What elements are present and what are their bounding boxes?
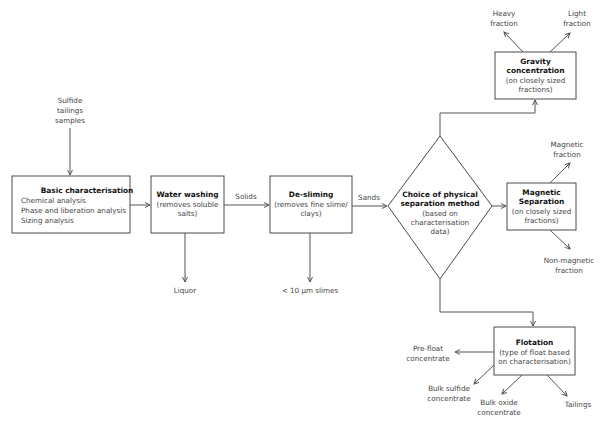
arrow-flotation-to-bulk-sulfide bbox=[474, 365, 494, 384]
arrow-magnetic-to-magnetic-fraction bbox=[550, 163, 570, 183]
svg-text:Pre-float: Pre-float bbox=[413, 344, 443, 353]
svg-text:fraction: fraction bbox=[553, 150, 581, 159]
svg-text:Basic characterisation: Basic characterisation bbox=[41, 186, 134, 195]
arrow-magnetic-to-nonmagnetic bbox=[550, 230, 570, 249]
arrow-decision-to-gravity bbox=[440, 100, 535, 136]
slimes-label: < 10 µm slimes bbox=[282, 286, 339, 295]
nonmagnetic-fraction-label: Non-magnetic fraction bbox=[544, 256, 595, 275]
svg-text:(removes fine slime/: (removes fine slime/ bbox=[274, 200, 348, 209]
svg-text:concentrate: concentrate bbox=[477, 408, 521, 417]
svg-text:separation method: separation method bbox=[400, 199, 479, 208]
svg-text:fractions): fractions) bbox=[524, 216, 558, 225]
flotation-box: Flotation (type of float based on charac… bbox=[494, 327, 575, 375]
solids-label: Solids bbox=[235, 192, 257, 201]
svg-text:fractions): fractions) bbox=[518, 85, 552, 94]
basic-characterisation-box: Basic characterisation Chemical analysis… bbox=[12, 176, 133, 233]
svg-text:Phase and liberation analysis: Phase and liberation analysis bbox=[21, 206, 126, 215]
svg-text:Magnetic: Magnetic bbox=[551, 140, 584, 149]
svg-text:(based on: (based on bbox=[422, 209, 458, 218]
svg-text:fraction: fraction bbox=[555, 266, 583, 275]
prefloat-concentrate-label: Pre-float concentrate bbox=[406, 344, 450, 363]
bulk-oxide-concentrate-label: Bulk oxide concentrate bbox=[477, 398, 521, 417]
arrow-gravity-to-light bbox=[550, 33, 570, 52]
svg-text:Heavy: Heavy bbox=[493, 9, 516, 18]
desliming-box: De-sliming (removes fine slime/ clays) bbox=[270, 176, 352, 233]
sands-label: Sands bbox=[358, 193, 380, 202]
svg-text:De-sliming: De-sliming bbox=[289, 190, 333, 199]
arrow-gravity-to-heavy bbox=[504, 32, 523, 52]
svg-text:Bulk sulfide: Bulk sulfide bbox=[428, 384, 470, 393]
svg-text:salts): salts) bbox=[178, 209, 198, 218]
svg-text:(removes soluble: (removes soluble bbox=[157, 200, 219, 209]
arrow-decision-to-flotation bbox=[440, 279, 533, 326]
svg-text:Light: Light bbox=[568, 9, 586, 18]
svg-text:fraction: fraction bbox=[563, 19, 591, 28]
gravity-concentration-box: Gravity concentration (on closely sized … bbox=[495, 52, 576, 99]
arrow-flotation-to-bulk-oxide bbox=[502, 375, 522, 394]
arrow-flotation-to-tailings bbox=[547, 375, 567, 396]
bulk-sulfide-concentrate-label: Bulk sulfide concentrate bbox=[427, 384, 471, 403]
svg-text:Sulfide: Sulfide bbox=[58, 96, 83, 105]
svg-text:Non-magnetic: Non-magnetic bbox=[544, 256, 595, 265]
svg-text:data): data) bbox=[431, 227, 450, 236]
svg-text:concentration: concentration bbox=[507, 66, 565, 75]
water-washing-box: Water washing (removes soluble salts) bbox=[151, 176, 224, 233]
heavy-fraction-label: Heavy fraction bbox=[490, 9, 518, 28]
svg-text:(on closely sized: (on closely sized bbox=[512, 207, 572, 216]
svg-text:Choice of physical: Choice of physical bbox=[402, 190, 477, 199]
svg-text:clays): clays) bbox=[300, 209, 321, 218]
svg-text:Bulk oxide: Bulk oxide bbox=[480, 398, 518, 407]
svg-text:Tailings: Tailings bbox=[564, 400, 592, 409]
svg-text:Water washing: Water washing bbox=[156, 190, 218, 199]
svg-text:concentrate: concentrate bbox=[406, 354, 450, 363]
svg-text:Sizing analysis: Sizing analysis bbox=[21, 216, 74, 225]
svg-text:fraction: fraction bbox=[490, 19, 518, 28]
magnetic-fraction-label: Magnetic fraction bbox=[551, 140, 584, 159]
flowchart: Sulfide tailings samples Basic character… bbox=[0, 0, 604, 424]
svg-text:Gravity: Gravity bbox=[520, 57, 551, 66]
svg-text:concentrate: concentrate bbox=[427, 394, 471, 403]
tailings-label: Tailings bbox=[564, 400, 592, 409]
svg-text:Separation: Separation bbox=[519, 197, 565, 206]
svg-text:on characterisation): on characterisation) bbox=[498, 357, 571, 366]
svg-text:(on closely sized: (on closely sized bbox=[506, 76, 566, 85]
liquor-label: Liquor bbox=[174, 286, 197, 295]
svg-text:samples: samples bbox=[55, 116, 85, 125]
light-fraction-label: Light fraction bbox=[563, 9, 591, 28]
decision-diamond: Choice of physical separation method (ba… bbox=[388, 136, 492, 279]
magnetic-separation-box: Magnetic Separation (on closely sized fr… bbox=[507, 183, 576, 230]
svg-text:(type of float based: (type of float based bbox=[499, 348, 570, 357]
input-label: Sulfide tailings samples bbox=[55, 96, 85, 125]
svg-text:tailings: tailings bbox=[57, 106, 83, 115]
svg-text:Magnetic: Magnetic bbox=[522, 188, 560, 197]
svg-text:Chemical analysis: Chemical analysis bbox=[21, 196, 86, 205]
svg-text:Flotation: Flotation bbox=[516, 338, 554, 347]
svg-text:characterisation: characterisation bbox=[411, 218, 469, 227]
